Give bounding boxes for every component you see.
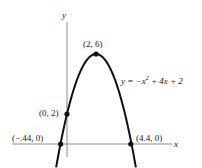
point-label-y-intercept: (0, 2) bbox=[39, 108, 59, 118]
data-point bbox=[128, 141, 133, 146]
data-point bbox=[58, 141, 63, 146]
data-point bbox=[93, 51, 98, 56]
point-label-vertex: (2, 6) bbox=[83, 39, 103, 49]
parabola-graph: x y (−.44, 0) (0, 2) (2, 6) (4.4, 0) y =… bbox=[0, 0, 202, 168]
equation-label: y = −x2 + 4x + 2 bbox=[120, 75, 183, 86]
y-axis-label: y bbox=[61, 10, 66, 20]
point-label-x-intercept-right: (4.4, 0) bbox=[136, 133, 162, 143]
x-axis-label: x bbox=[173, 139, 178, 149]
parabola-curve bbox=[56, 54, 136, 167]
data-point bbox=[64, 111, 69, 116]
point-label-x-intercept-left: (−.44, 0) bbox=[12, 133, 43, 143]
